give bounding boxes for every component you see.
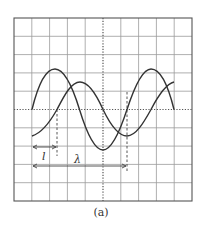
figure-caption: (a): [0, 206, 202, 219]
oscilloscope-diagram: l λ: [0, 0, 202, 230]
l-label: l: [42, 150, 46, 163]
lambda-label: λ: [73, 153, 81, 166]
